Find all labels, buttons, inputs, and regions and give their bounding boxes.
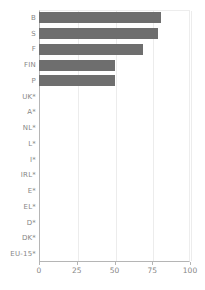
bar-row: [39, 89, 190, 105]
bar-P: [39, 75, 115, 86]
category-label: IRL*: [0, 168, 36, 184]
x-axis-tick-labels: 0255075100: [0, 266, 205, 280]
category-label: F: [0, 42, 36, 58]
x-tick-mark: [77, 262, 78, 265]
category-label: DK*: [0, 231, 36, 247]
category-label: EL*: [0, 199, 36, 215]
category-label: EU-15*: [0, 246, 36, 262]
bar-FIN: [39, 60, 115, 71]
category-label: L*: [0, 136, 36, 152]
bar-row: [39, 246, 190, 262]
gridline-100: [191, 11, 192, 261]
bar-row: [39, 10, 190, 26]
x-tick-label: 50: [110, 266, 120, 275]
category-label: S: [0, 26, 36, 42]
x-tick-label: 75: [147, 266, 157, 275]
bar-row: [39, 26, 190, 42]
bar-row: [39, 105, 190, 121]
bar-row: [39, 183, 190, 199]
x-tick-label: 25: [72, 266, 82, 275]
category-label: A*: [0, 105, 36, 121]
bar-row: [39, 136, 190, 152]
x-tick-label: 100: [183, 266, 197, 275]
bar-row: [39, 42, 190, 58]
x-tick-mark: [39, 262, 40, 265]
bar-row: [39, 231, 190, 247]
category-label: D*: [0, 215, 36, 231]
bar-chart: BSFFINPUK*A*NL*L*I*IRL*E*EL*D*DK*EU-15* …: [0, 0, 205, 290]
bar-row: [39, 73, 190, 89]
bars-container: [39, 10, 190, 262]
category-label: B: [0, 10, 36, 26]
category-label: I*: [0, 152, 36, 168]
bar-F: [39, 44, 143, 55]
bar-row: [39, 168, 190, 184]
bar-row: [39, 57, 190, 73]
category-label: E*: [0, 183, 36, 199]
x-tick-mark: [115, 262, 116, 265]
category-label: FIN: [0, 57, 36, 73]
category-axis-labels: BSFFINPUK*A*NL*L*I*IRL*E*EL*D*DK*EU-15*: [0, 10, 36, 262]
bar-row: [39, 215, 190, 231]
category-label: UK*: [0, 89, 36, 105]
bar-S: [39, 28, 158, 39]
x-tick-label: 0: [37, 266, 42, 275]
bar-row: [39, 199, 190, 215]
bar-row: [39, 152, 190, 168]
bar-B: [39, 12, 161, 23]
category-label: P: [0, 73, 36, 89]
x-tick-mark: [152, 262, 153, 265]
bar-row: [39, 120, 190, 136]
x-tick-mark: [190, 262, 191, 265]
category-label: NL*: [0, 120, 36, 136]
